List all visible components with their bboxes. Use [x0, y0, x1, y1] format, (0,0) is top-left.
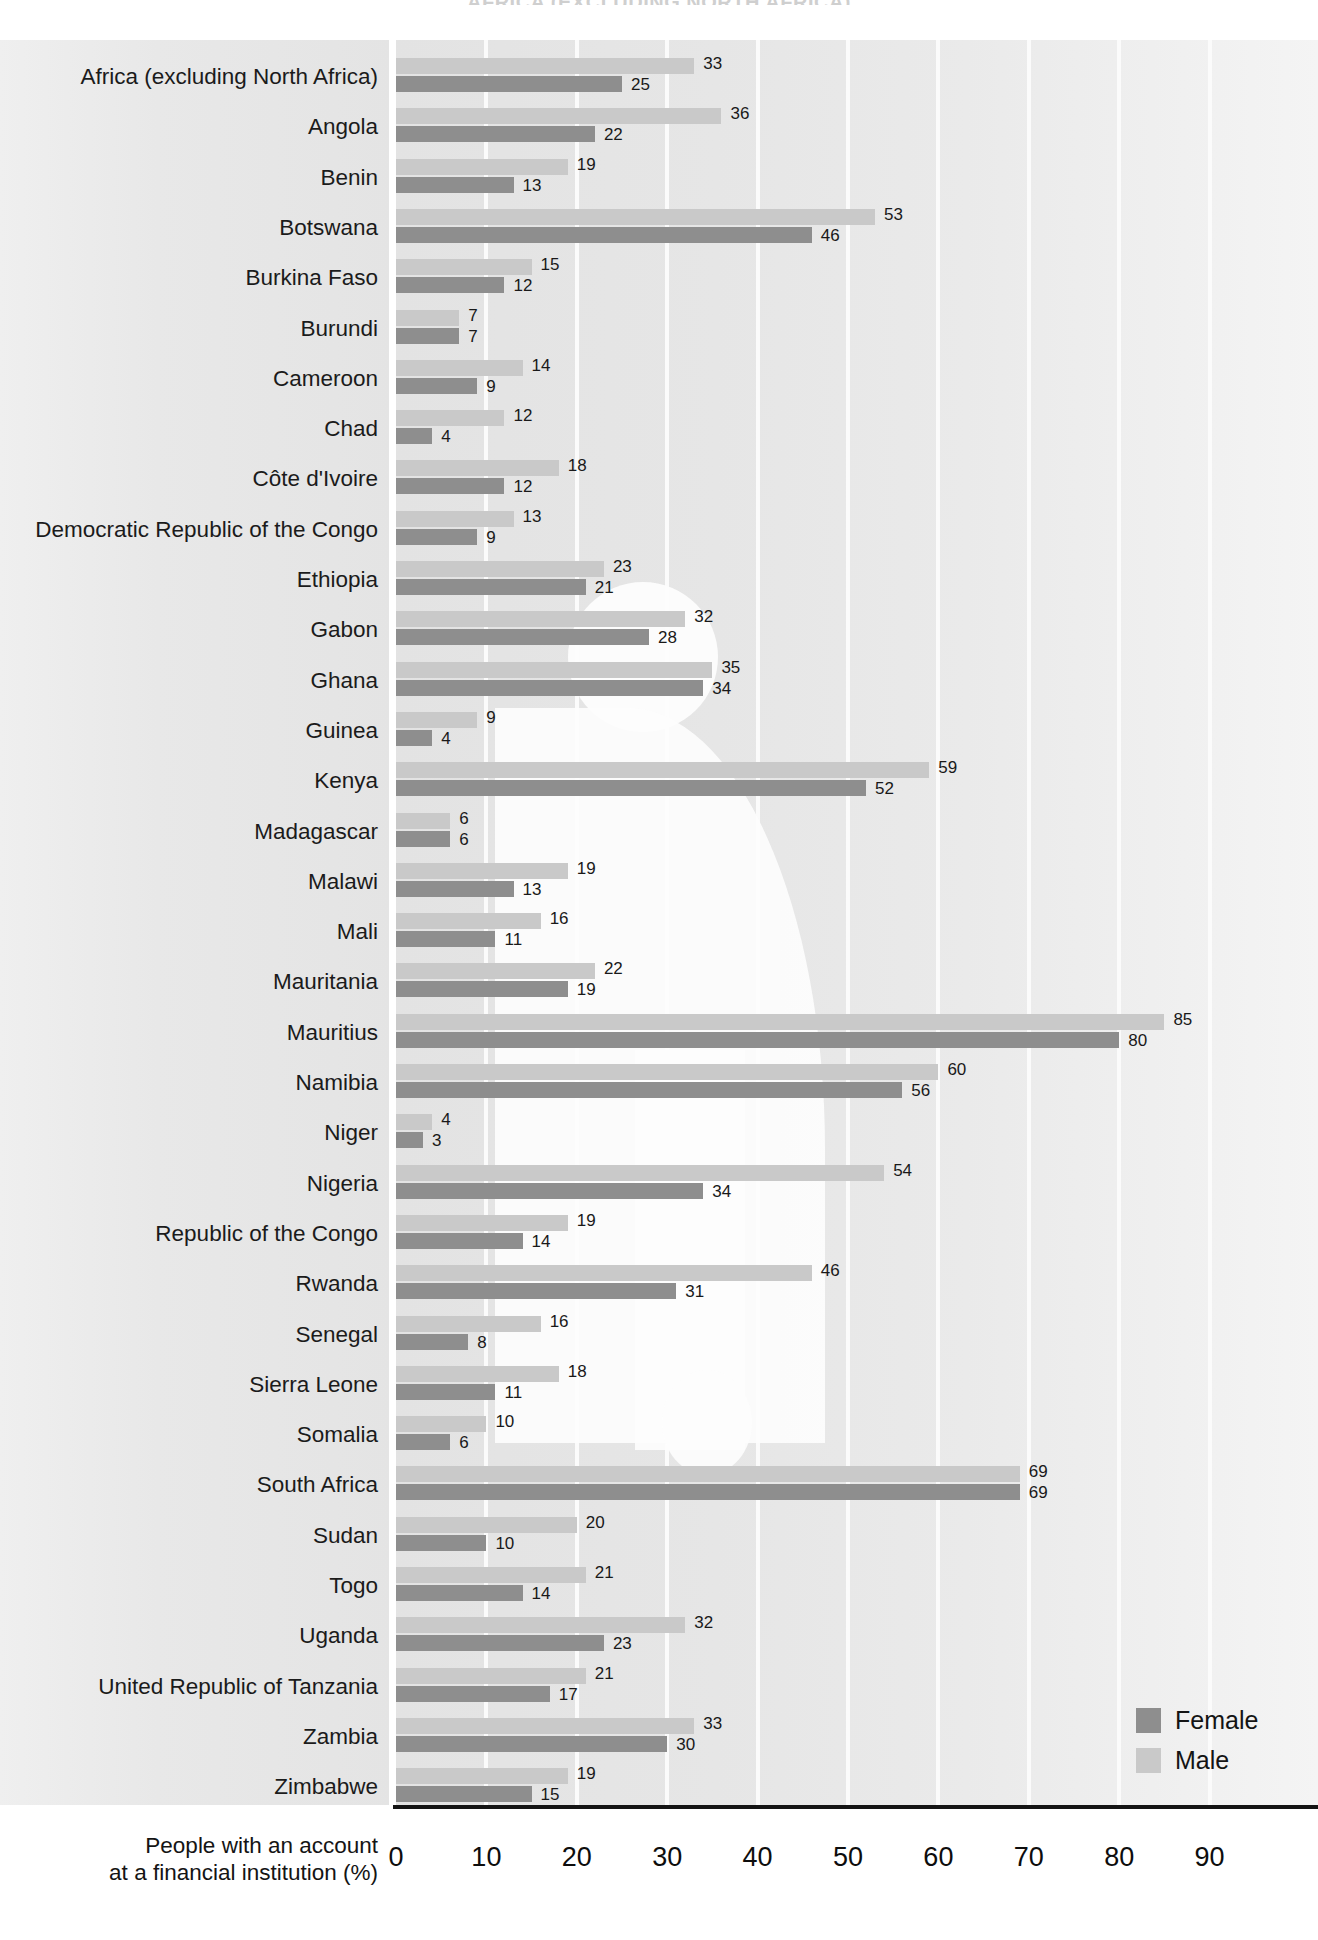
x-axis-title: People with an account at a financial in… — [0, 1832, 378, 1887]
bar-female — [396, 1233, 523, 1249]
value-label-male: 53 — [884, 206, 903, 223]
value-label-male: 46 — [821, 1262, 840, 1279]
bar-male — [396, 611, 685, 627]
bar-male — [396, 863, 568, 879]
bar-female — [396, 328, 459, 344]
bar-male — [396, 813, 450, 829]
bar-female — [396, 1484, 1020, 1500]
category-label: Côte d'Ivoire — [0, 468, 378, 491]
bar-row: Niger43 — [0, 1114, 1318, 1164]
value-label-male: 59 — [938, 759, 957, 776]
value-label-female: 8 — [477, 1334, 486, 1351]
bar-row: Botswana5346 — [0, 209, 1318, 259]
bar-male — [396, 360, 523, 376]
category-label: Botswana — [0, 217, 378, 240]
bar-row: Democratic Republic of the Congo139 — [0, 511, 1318, 561]
value-label-male: 21 — [595, 1564, 614, 1581]
value-label-female: 30 — [676, 1736, 695, 1753]
category-label: Guinea — [0, 720, 378, 743]
bar-female — [396, 1535, 486, 1551]
bar-male — [396, 108, 721, 124]
bar-row: Senegal168 — [0, 1316, 1318, 1366]
bar-female — [396, 780, 866, 796]
bar-row: Mauritius8580 — [0, 1014, 1318, 1064]
bar-female — [396, 680, 703, 696]
x-tick-label-20: 20 — [562, 1844, 592, 1871]
value-label-female: 11 — [504, 931, 522, 948]
value-label-female: 9 — [486, 378, 495, 395]
x-tick-label-80: 80 — [1104, 1844, 1134, 1871]
chart-page: AFRICA (EXCLUDING NORTH AFRICA) Africa (… — [0, 0, 1318, 1940]
bar-row: Zimbabwe1915 — [0, 1768, 1318, 1818]
bar-male — [396, 1718, 694, 1734]
bar-female — [396, 579, 586, 595]
value-label-male: 19 — [577, 860, 596, 877]
bar-female — [396, 277, 504, 293]
value-label-male: 4 — [441, 1111, 450, 1128]
bar-female — [396, 126, 595, 142]
bar-male — [396, 963, 595, 979]
value-label-female: 56 — [911, 1082, 930, 1099]
bar-row: Sudan2010 — [0, 1517, 1318, 1567]
bar-female — [396, 428, 432, 444]
bar-female — [396, 730, 432, 746]
bar-female — [396, 1183, 703, 1199]
bar-female — [396, 1384, 495, 1400]
value-label-male: 23 — [613, 558, 632, 575]
bar-row: Mali1611 — [0, 913, 1318, 963]
category-label: Mauritius — [0, 1022, 378, 1045]
bar-male — [396, 1114, 432, 1130]
bar-male — [396, 1617, 685, 1633]
value-label-male: 32 — [694, 1614, 713, 1631]
value-label-male: 35 — [721, 659, 740, 676]
bar-female — [396, 931, 495, 947]
legend-item-female: Female — [1136, 1700, 1311, 1740]
chart-plot-area: Africa (excluding North Africa)3325Angol… — [0, 40, 1318, 1805]
category-label: United Republic of Tanzania — [0, 1676, 378, 1699]
bar-row: Republic of the Congo1914 — [0, 1215, 1318, 1265]
bar-row: Côte d'Ivoire1812 — [0, 460, 1318, 510]
value-label-male: 19 — [577, 156, 596, 173]
category-label: Zimbabwe — [0, 1776, 378, 1799]
category-label: Burkina Faso — [0, 267, 378, 290]
category-label: Senegal — [0, 1324, 378, 1347]
value-label-female: 9 — [486, 529, 495, 546]
value-label-male: 20 — [586, 1514, 605, 1531]
bar-female — [396, 1434, 450, 1450]
legend-swatch-female — [1136, 1708, 1161, 1733]
value-label-male: 15 — [541, 256, 560, 273]
bar-male — [396, 209, 875, 225]
bar-male — [396, 310, 459, 326]
x-tick-label-50: 50 — [833, 1844, 863, 1871]
bar-male — [396, 712, 477, 728]
category-label: Nigeria — [0, 1173, 378, 1196]
bar-row: Ghana3534 — [0, 662, 1318, 712]
bar-male — [396, 1517, 577, 1533]
bar-row: Uganda3223 — [0, 1617, 1318, 1667]
x-axis-title-line1: People with an account — [0, 1832, 378, 1859]
category-label: Malawi — [0, 871, 378, 894]
value-label-female: 15 — [541, 1786, 560, 1803]
value-label-female: 25 — [631, 76, 650, 93]
bar-row: Malawi1913 — [0, 863, 1318, 913]
bar-male — [396, 1165, 884, 1181]
x-tick-label-70: 70 — [1014, 1844, 1044, 1871]
category-label: Cameroon — [0, 368, 378, 391]
value-label-female: 10 — [495, 1535, 514, 1552]
value-label-male: 16 — [550, 910, 569, 927]
value-label-male: 16 — [550, 1313, 569, 1330]
bar-male — [396, 1466, 1020, 1482]
bar-row: South Africa6969 — [0, 1466, 1318, 1516]
value-label-male: 7 — [468, 307, 477, 324]
category-label: Somalia — [0, 1424, 378, 1447]
category-label: Sierra Leone — [0, 1374, 378, 1397]
bar-row: Zambia3330 — [0, 1718, 1318, 1768]
bar-row: Namibia6056 — [0, 1064, 1318, 1114]
bar-male — [396, 460, 559, 476]
bar-row: Nigeria5434 — [0, 1165, 1318, 1215]
category-label: Madagascar — [0, 821, 378, 844]
value-label-male: 60 — [947, 1061, 966, 1078]
value-label-female: 4 — [441, 428, 450, 445]
bar-male — [396, 1567, 586, 1583]
x-tick-label-90: 90 — [1195, 1844, 1225, 1871]
